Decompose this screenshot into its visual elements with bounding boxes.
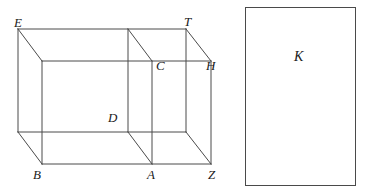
prism-connecting-edges [18, 29, 211, 164]
vertex-label-E: E [14, 16, 22, 29]
prism-back-face [18, 29, 186, 132]
geometry-figure: E T C H D B A Z K [0, 0, 370, 195]
vertex-label-T: T [184, 15, 191, 28]
cut-edge-depth-bottom [128, 132, 152, 164]
vertex-label-B: B [33, 168, 41, 181]
region-rectangle-outline [246, 8, 356, 186]
edge-depth-bottom-left [18, 132, 42, 164]
vertex-label-H: H [206, 59, 215, 72]
vertex-label-D: D [108, 111, 117, 124]
edge-depth-top-right [186, 29, 211, 61]
vertex-label-Z: Z [208, 168, 215, 181]
cut-edge-depth-top [128, 29, 152, 61]
edge-depth-bottom-right [186, 132, 211, 164]
vertex-label-A: A [147, 168, 155, 181]
prism-cut-plane [128, 29, 152, 164]
rect-k-border [246, 8, 356, 186]
vertex-label-C: C [156, 59, 165, 72]
figure-canvas [0, 0, 370, 195]
edge-depth-top-left [18, 29, 42, 61]
region-label-K: K [294, 50, 303, 64]
